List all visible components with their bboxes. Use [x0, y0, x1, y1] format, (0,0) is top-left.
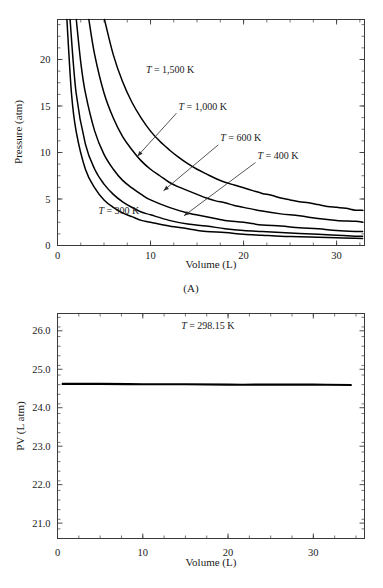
curve-temperature-label: T = 600 K [220, 132, 262, 143]
y-tick-label: 26.0 [32, 325, 50, 336]
y-tick-label: 10 [40, 147, 51, 158]
panel-b-y-axis-title: PV (L atm) [14, 401, 27, 451]
panel-a-x-axis-title: Volume (L) [186, 258, 237, 271]
x-tick-label: 10 [145, 250, 156, 261]
panel-b-pv-volume: 0102030 21.022.023.024.025.026.0 T = 298… [0, 300, 383, 588]
y-tick-label: 22.0 [32, 479, 50, 490]
curve-temperature-label: T = 400 K [258, 150, 300, 161]
panel-a-curve-labels: T = 1,500 KT = 1,000 KT = 600 KT = 400 K… [98, 64, 299, 216]
y-tick-label: 25.0 [32, 364, 50, 375]
x-tick-label: 0 [55, 250, 60, 261]
panel-b-major-ticks [58, 314, 365, 539]
panel-a-plot: 0102030 05101520 T = 1,500 KT = 1,000 KT… [0, 0, 383, 300]
x-tick-label: 10 [138, 547, 149, 558]
panel-a-leader-lines [138, 113, 256, 216]
y-tick-label: 0 [45, 240, 50, 251]
isotherm-curve [89, 20, 363, 223]
panel-b-pv-line [62, 384, 352, 385]
y-tick-label: 21.0 [32, 518, 50, 529]
y-tick-label: 15 [40, 101, 51, 112]
x-tick-label: 20 [238, 250, 249, 261]
panel-b-temperature-label: T = 298.15 K [181, 320, 235, 331]
isotherm-curve [70, 20, 363, 237]
curve-temperature-label: T = 1,000 K [178, 101, 227, 112]
panel-b-axes-frame [58, 314, 365, 539]
panel-a-caption: (A) [183, 282, 199, 295]
panel-a-y-axis-title: Pressure (atm) [12, 100, 25, 164]
isotherm-curve [104, 20, 362, 211]
panel-b-y-tick-labels: 21.022.023.024.025.026.0 [32, 325, 50, 528]
curve-temperature-label: T = 1,500 K [146, 64, 195, 75]
curve-temperature-label: T = 300 K [98, 205, 140, 216]
panel-b-plot: 0102030 21.022.023.024.025.026.0 T = 298… [0, 300, 383, 588]
panel-a-pressure-volume: 0102030 05101520 T = 1,500 KT = 1,000 KT… [0, 0, 383, 300]
x-tick-label: 0 [55, 547, 60, 558]
y-tick-label: 20 [40, 54, 51, 65]
curve-temperature-label: T = 298.15 K [181, 320, 235, 331]
ideal-gas-figure: 0102030 05101520 T = 1,500 KT = 1,000 KT… [0, 0, 383, 588]
y-tick-label: 24.0 [32, 402, 50, 413]
y-tick-label: 5 [45, 194, 50, 205]
y-tick-label: 23.0 [32, 441, 50, 452]
x-tick-label: 30 [308, 547, 319, 558]
panel-b-x-axis-title: Volume (L) [186, 556, 237, 569]
panel-b-minor-ticks [58, 314, 365, 539]
x-tick-label: 30 [331, 250, 342, 261]
isotherm-curve [62, 384, 352, 385]
panel-a-y-tick-labels: 05101520 [40, 54, 51, 251]
